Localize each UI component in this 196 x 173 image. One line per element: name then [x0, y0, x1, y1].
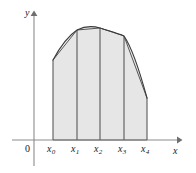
origin-label: 0 [25, 144, 30, 154]
tick-sub-x3: 3 [123, 148, 127, 156]
tick-sub-x2: 2 [99, 148, 103, 156]
tick-label-x4: x4 [141, 144, 149, 154]
tick-sub-x4: 4 [146, 148, 150, 156]
tick-base-x0: x [47, 143, 51, 154]
y-axis-label: y [25, 8, 29, 18]
tick-sub-x0: 0 [52, 148, 56, 156]
tick-base-x4: x [141, 143, 145, 154]
tick-label-x1: x1 [71, 144, 79, 154]
tick-sub-x1: 1 [76, 148, 80, 156]
trapezoidal-rule-figure: y x 0 x0 x1 x2 x3 x4 [0, 0, 196, 173]
tick-base-x2: x [94, 143, 98, 154]
tick-label-x0: x0 [47, 144, 55, 154]
y-axis-arrow-icon [31, 11, 38, 17]
tick-base-x3: x [118, 143, 122, 154]
x-axis-arrow-icon [177, 136, 183, 143]
tick-base-x1: x [71, 143, 75, 154]
tick-label-x2: x2 [94, 144, 102, 154]
tick-label-x3: x3 [118, 144, 126, 154]
x-axis-label: x [173, 146, 177, 156]
